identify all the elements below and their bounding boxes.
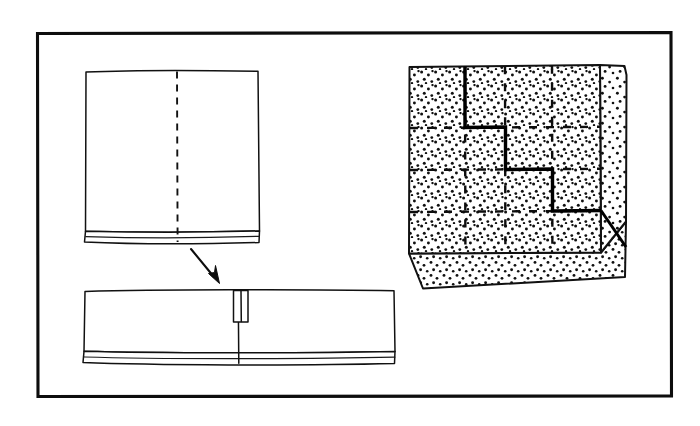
figure-canvas — [0, 0, 700, 426]
block-right-face — [600, 65, 627, 253]
figure-root: Folded sheet and stippled block with ste… — [0, 0, 700, 426]
unfolded-sheet — [85, 71, 260, 244]
fold-direction-arrow — [191, 249, 220, 284]
fold-tab-notch — [234, 291, 249, 323]
stippled-block — [409, 65, 627, 289]
folded-sheet — [83, 290, 395, 365]
